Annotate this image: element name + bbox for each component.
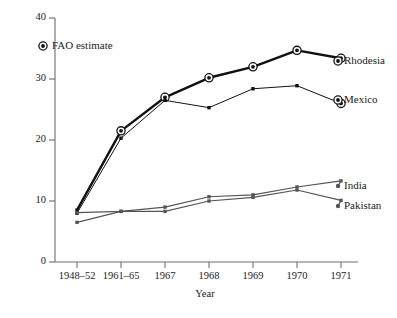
data-point-marker [207,199,210,202]
chart-figure: FAO estimate Year Rhodesia Mexico India … [0,0,397,318]
series-end-dot-rhodesia [336,59,340,63]
y-tick-label: 40 [18,11,46,22]
series-line-mexico [77,86,341,213]
fao-estimate-marker-dot [119,129,123,133]
data-point-marker [75,221,78,224]
fao-estimate-marker-dot [163,95,167,99]
legend-marker-group [39,42,47,50]
series-line-pakistan [77,190,341,222]
x-axis-title: Year [175,288,235,299]
data-point-marker [251,196,254,199]
y-tick-label: 30 [18,72,46,83]
series-label-mexico: Mexico [344,93,378,105]
data-point-marker [339,179,342,182]
legend-fao-marker-dot [41,44,45,48]
axes [49,18,358,268]
data-point-marker [119,136,122,139]
series-label-india: India [344,179,367,191]
data-point-marker [163,210,166,213]
data-point-marker [295,185,298,188]
y-tick-label: 0 [18,255,46,266]
y-tick-label: 20 [18,133,46,144]
series-end-dot-mexico [336,98,340,102]
fao-estimate-marker-dot [207,76,211,80]
data-point-marker [207,195,210,198]
data-point-marker [163,99,166,102]
y-axis-ticks [49,18,55,262]
data-point-marker [295,188,298,191]
series-end-marker-pakistan [336,204,340,208]
legend-item-fao-estimate: FAO estimate [52,39,113,51]
data-point-marker [339,199,342,202]
data-point-marker [163,205,166,208]
data-point-marker [207,106,210,109]
y-tick-label: 10 [18,194,46,205]
data-point-marker [251,87,254,90]
data-point-marker [75,211,78,214]
data-point-marker [119,210,122,213]
x-axis-ticks [77,262,341,268]
series-label-rhodesia: Rhodesia [344,54,385,66]
series-label-pakistan: Pakistan [344,199,381,211]
fao-estimate-marker-dot [295,48,299,52]
data-series-group [75,46,345,224]
data-point-marker [295,84,298,87]
series-end-marker-india [336,184,340,188]
fao-estimate-marker-dot [251,65,255,69]
x-tick-label: 1971 [311,270,371,281]
